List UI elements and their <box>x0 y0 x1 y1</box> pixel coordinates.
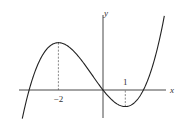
x-tick-label: −2 <box>54 94 64 104</box>
function-graph: x y −21 <box>0 0 186 123</box>
x-tick-label: 1 <box>123 77 128 87</box>
cubic-curve <box>22 16 164 119</box>
x-axis-label: x <box>169 85 174 95</box>
y-axis-label: y <box>103 8 108 18</box>
